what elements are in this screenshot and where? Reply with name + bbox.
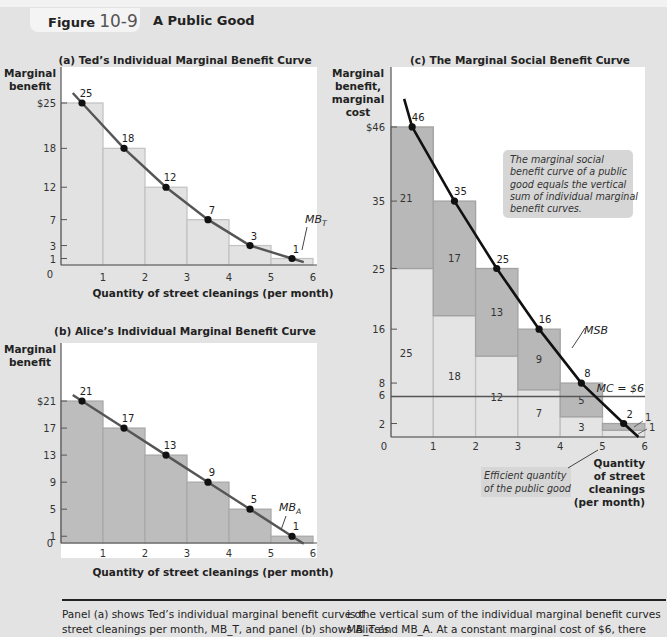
svg-text:8: 8 — [379, 378, 385, 389]
svg-text:Quantity: Quantity — [594, 457, 646, 469]
svg-text:benefit: benefit — [9, 80, 51, 92]
svg-text:Marginal: Marginal — [4, 67, 56, 79]
svg-text:cleanings: cleanings — [589, 483, 645, 495]
svg-text:13: 13 — [43, 450, 56, 461]
svg-text:7: 7 — [209, 205, 215, 216]
svg-text:18: 18 — [43, 143, 56, 154]
svg-text:5: 5 — [50, 504, 56, 515]
svg-text:18: 18 — [448, 371, 461, 382]
data-point — [493, 265, 500, 272]
data-point — [578, 379, 585, 386]
svg-text:25: 25 — [372, 264, 385, 275]
data-point — [204, 216, 211, 223]
data-point — [288, 533, 295, 540]
svg-text:MC = $6: MC = $6 — [597, 382, 644, 395]
bar — [229, 509, 271, 543]
caption-right-line2: MB_T and MB_A. At a constant marginal co… — [347, 622, 661, 637]
svg-text:0: 0 — [47, 538, 53, 549]
bar — [103, 148, 145, 265]
chart-panel-a: (a) Ted’s Individual Marginal Benefit Cu… — [4, 54, 334, 299]
svg-text:35: 35 — [454, 186, 467, 197]
caption-rule — [62, 599, 666, 601]
svg-text:3: 3 — [515, 441, 521, 452]
caption-left: Panel (a) shows Ted’s individual margina… — [62, 607, 389, 637]
svg-text:(b) Alice’s Individual Margina: (b) Alice’s Individual Marginal Benefit … — [54, 325, 316, 337]
svg-text:6: 6 — [310, 548, 316, 559]
svg-text:(a) Ted’s Individual Marginal: (a) Ted’s Individual Marginal Benefit Cu… — [58, 54, 311, 66]
data-point — [246, 242, 253, 249]
svg-text:13: 13 — [164, 440, 177, 451]
svg-text:3: 3 — [184, 548, 190, 559]
svg-text:marginal: marginal — [332, 93, 384, 105]
svg-text:0: 0 — [381, 441, 387, 452]
bar — [145, 455, 187, 543]
svg-text:2: 2 — [472, 441, 478, 452]
svg-text:7: 7 — [536, 408, 542, 419]
svg-text:25: 25 — [80, 88, 93, 99]
svg-text:1: 1 — [50, 254, 56, 265]
data-point — [288, 255, 295, 262]
svg-text:2: 2 — [626, 409, 632, 420]
svg-text:6: 6 — [310, 272, 316, 283]
svg-text:$46: $46 — [366, 122, 385, 133]
svg-text:benefit,: benefit, — [335, 80, 381, 92]
data-point — [535, 326, 542, 333]
svg-text:1: 1 — [293, 244, 299, 255]
svg-text:46: 46 — [412, 112, 425, 123]
svg-text:1: 1 — [100, 548, 106, 559]
svg-text:2: 2 — [379, 419, 385, 430]
svg-text:5: 5 — [251, 494, 257, 505]
svg-text:(per month): (per month) — [574, 496, 645, 508]
svg-text:3: 3 — [578, 422, 584, 433]
svg-text:16: 16 — [539, 314, 552, 325]
svg-text:18: 18 — [122, 133, 135, 144]
svg-text:MBT: MBT — [305, 213, 328, 228]
svg-text:25: 25 — [400, 348, 413, 359]
svg-text:0: 0 — [47, 269, 53, 280]
svg-text:1: 1 — [430, 441, 436, 452]
svg-text:3: 3 — [251, 231, 257, 242]
figure-charts: (a) Ted’s Individual Marginal Benefit Cu… — [0, 0, 667, 600]
data-point — [120, 145, 127, 152]
svg-text:17: 17 — [122, 413, 135, 424]
svg-text:5: 5 — [268, 548, 274, 559]
svg-text:4: 4 — [226, 272, 232, 283]
svg-text:9: 9 — [209, 467, 215, 478]
svg-text:5: 5 — [268, 272, 274, 283]
svg-text:$21: $21 — [37, 396, 56, 407]
svg-text:1: 1 — [100, 272, 106, 283]
svg-text:(c) The Marginal Social Benefi: (c) The Marginal Social Benefit Curve — [410, 54, 630, 66]
data-point — [78, 397, 85, 404]
svg-text:Marginal: Marginal — [4, 343, 56, 355]
svg-text:1: 1 — [293, 521, 299, 532]
svg-text:2: 2 — [142, 272, 148, 283]
svg-text:12: 12 — [164, 172, 177, 183]
svg-text:6: 6 — [642, 441, 648, 452]
svg-text:5: 5 — [599, 441, 605, 452]
data-point — [409, 123, 416, 130]
caption-left-line1: Panel (a) shows Ted’s individual margina… — [62, 607, 389, 622]
svg-text:7: 7 — [50, 215, 56, 226]
svg-text:25: 25 — [496, 254, 509, 265]
svg-text:9: 9 — [50, 477, 56, 488]
svg-text:MSB: MSB — [584, 324, 608, 337]
svg-text:21: 21 — [400, 193, 413, 204]
svg-text:8: 8 — [584, 368, 590, 379]
svg-text:17: 17 — [448, 253, 461, 264]
data-point — [120, 424, 127, 431]
svg-text:21: 21 — [80, 386, 93, 397]
svg-text:35: 35 — [372, 196, 385, 207]
data-point — [204, 479, 211, 486]
data-point — [162, 452, 169, 459]
svg-text:6: 6 — [379, 390, 385, 401]
svg-text:12: 12 — [43, 182, 56, 193]
svg-text:16: 16 — [372, 324, 385, 335]
svg-text:Quantity of street cleanings (: Quantity of street cleanings (per month) — [92, 566, 333, 578]
svg-text:9: 9 — [536, 354, 542, 365]
svg-text:cost: cost — [346, 106, 371, 118]
data-point — [451, 198, 458, 205]
caption-left-line2: street cleanings per month, MB_T, and pa… — [62, 622, 389, 637]
svg-text:3: 3 — [184, 272, 190, 283]
chart-panel-b: (b) Alice’s Individual Marginal Benefit … — [4, 325, 334, 578]
caption-right-line1: is the vertical sum of the individual ma… — [347, 607, 661, 622]
